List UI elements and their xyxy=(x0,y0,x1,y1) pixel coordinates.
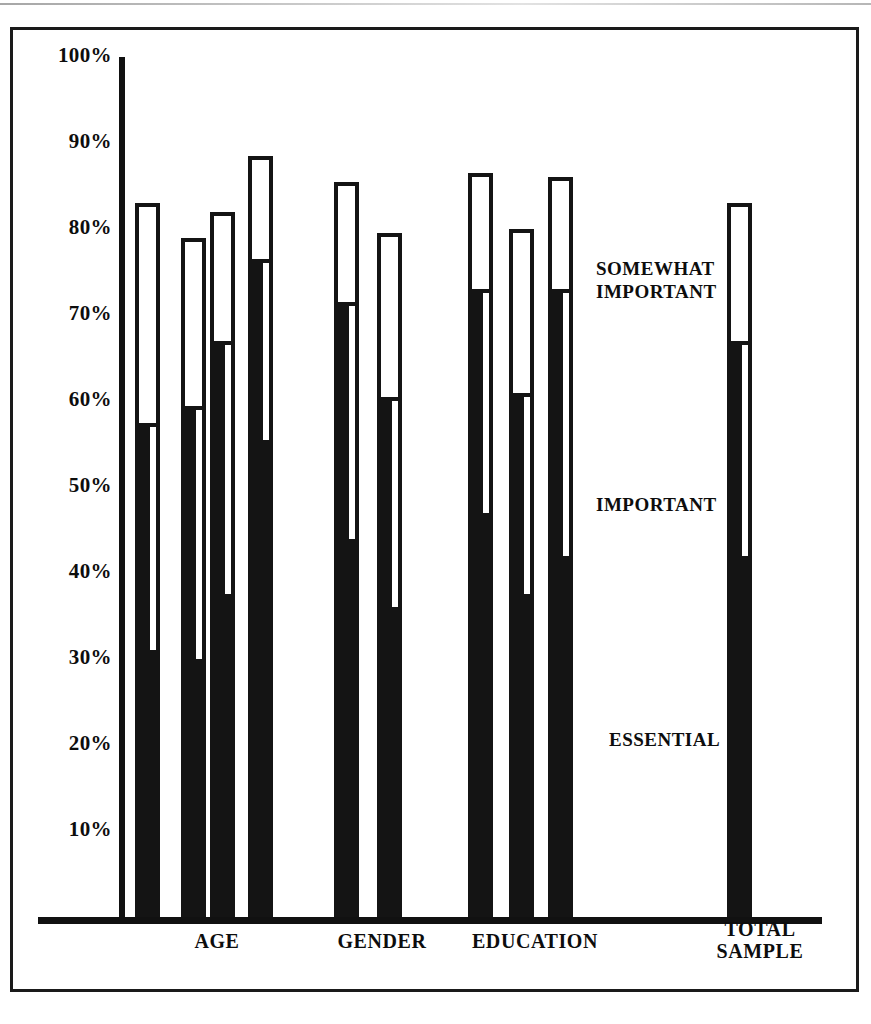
bar-notch-important xyxy=(147,427,156,651)
bar-3 xyxy=(210,212,235,917)
bar-notch-important xyxy=(480,293,489,512)
chart-page: 100% 90% 80% 70% 60% 50% 40% 30% 20% 10%… xyxy=(0,0,871,1024)
bar-notch-important xyxy=(521,397,530,595)
bar-2 xyxy=(181,238,206,917)
bar-5 xyxy=(334,182,359,917)
y-tick-label-60: 60% xyxy=(0,387,112,412)
bar-10 xyxy=(727,203,752,917)
y-tick-label-80: 80% xyxy=(0,215,112,240)
bar-notch-important xyxy=(389,401,398,607)
bar-notch-important xyxy=(222,345,231,594)
bar-9 xyxy=(548,177,573,917)
legend-label-essential: ESSENTIAL xyxy=(609,728,720,751)
group-label-total-sample: TOTAL SAMPLE xyxy=(700,918,820,963)
bar-1 xyxy=(135,203,160,917)
bar-notch-important xyxy=(739,345,748,556)
group-label-age: AGE xyxy=(152,930,282,952)
y-tick-label-70: 70% xyxy=(0,301,112,326)
bar-notch-important xyxy=(346,306,355,538)
y-tick-label-20: 20% xyxy=(0,731,112,756)
y-tick-label-50: 50% xyxy=(0,473,112,498)
bar-4 xyxy=(248,156,273,917)
plot-area: 100% 90% 80% 70% 60% 50% 40% 30% 20% 10%… xyxy=(0,0,871,1024)
bar-notch-important xyxy=(560,293,569,555)
group-label-gender: GENDER xyxy=(317,930,447,952)
group-label-education: EDUCATION xyxy=(455,930,615,952)
y-tick-label-90: 90% xyxy=(0,129,112,154)
y-tick-label-100: 100% xyxy=(0,43,112,68)
bar-8 xyxy=(509,229,534,917)
y-tick-label-40: 40% xyxy=(0,559,112,584)
legend-label-important: IMPORTANT xyxy=(596,493,717,516)
bar-notch-important xyxy=(260,263,269,439)
bar-7 xyxy=(468,173,493,917)
bar-notch-important xyxy=(193,410,202,659)
y-axis-spine xyxy=(119,57,125,918)
y-tick-label-30: 30% xyxy=(0,645,112,670)
legend-label-somewhat-important: SOMEWHAT IMPORTANT xyxy=(596,257,717,303)
y-tick-label-10: 10% xyxy=(0,817,112,842)
bar-6 xyxy=(377,233,402,917)
